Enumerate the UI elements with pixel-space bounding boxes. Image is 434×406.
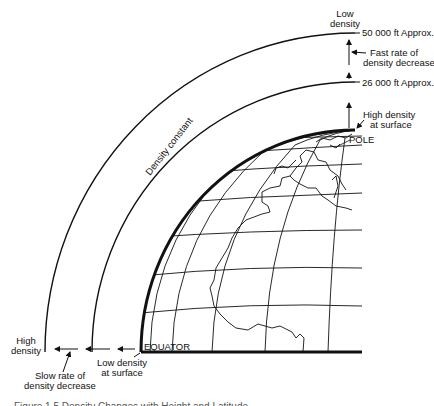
leader-high-density-surface [357, 120, 364, 128]
label-low-density-2: density [330, 18, 360, 29]
arc-50000ft [45, 33, 355, 352]
leader-fast-rate [352, 52, 366, 53]
label-low-density-surface-2: at surface [101, 367, 143, 378]
globe-outline [141, 130, 355, 352]
label-high-density-surface-2: at surface [370, 119, 412, 130]
figure-caption: Figure 1.5 Density Changes with Height a… [14, 401, 248, 406]
label-alt-26000: 26 000 ft Approx. [362, 77, 434, 88]
label-alt-50000: 50 000 ft Approx. [362, 27, 434, 38]
label-slow-rate-2: density decrease [24, 380, 96, 391]
label-equator: EQUATOR [144, 341, 190, 352]
label-fast-rate-2: density decrease [363, 57, 434, 68]
label-pole: POLE [349, 134, 374, 145]
label-high-density-left-2: density [11, 345, 41, 356]
globe [140, 130, 362, 352]
leader-slow-rate [63, 352, 70, 372]
label-density-constant: Density constant [143, 115, 195, 177]
arc-26000ft [92, 82, 355, 352]
density-diagram: Low density 50 000 ft Approx. Fast rate … [0, 0, 434, 406]
